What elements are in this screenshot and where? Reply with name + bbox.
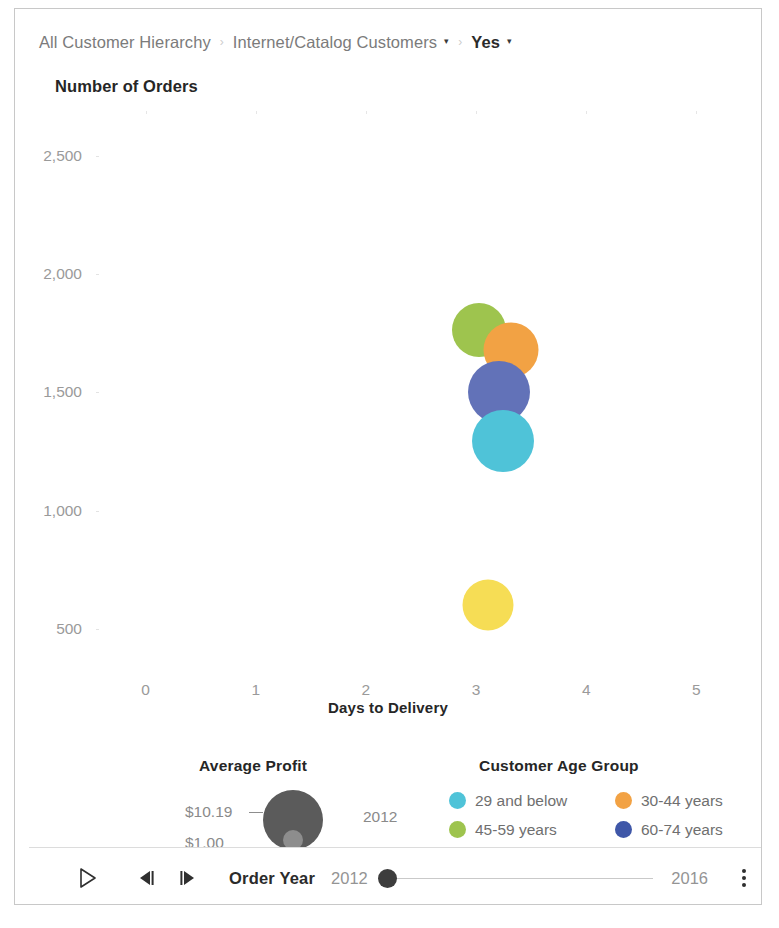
play-axis-handle[interactable] (378, 869, 397, 888)
chevron-down-icon-yes[interactable]: ▾ (507, 36, 512, 46)
size-legend-body: $10.19 $1.00 2012 (185, 786, 435, 848)
gridline-vertical (256, 111, 257, 669)
x-axis-tick-label: 5 (692, 681, 701, 699)
breadcrumb-item-internet-catalog-customers[interactable]: Internet/Catalog Customers (233, 33, 437, 52)
legend-swatch-icon (615, 792, 632, 809)
chevron-down-icon-internet-catalog[interactable]: ▾ (444, 36, 449, 46)
gridline-horizontal (96, 392, 746, 393)
breadcrumb-item-yes[interactable]: Yes (471, 33, 500, 52)
legend-item-label: 30-44 years (641, 792, 723, 810)
play-axis-start-value: 2012 (331, 869, 368, 888)
legend-item[interactable]: 60-74 years (615, 815, 762, 844)
gridline-horizontal (96, 511, 746, 512)
visualization-card: All Customer Hierarchy › Internet/Catalo… (14, 8, 762, 905)
bubble-point[interactable] (472, 410, 534, 472)
y-axis-tick-label: 1,500 (43, 383, 82, 401)
legend-item-label: 60-74 years (641, 821, 723, 839)
size-legend-year-label: 2012 (363, 808, 397, 826)
legend-item-label: 29 and below (475, 792, 567, 810)
size-legend: Average Profit $10.19 $1.00 2012 (185, 757, 435, 848)
color-legend-title: Customer Age Group (479, 757, 762, 775)
legend-item[interactable]: 45-59 years (449, 815, 615, 844)
y-axis-title: Number of Orders (55, 77, 198, 96)
legend-swatch-icon (449, 792, 466, 809)
y-axis-tick-label: 1,000 (43, 502, 82, 520)
breadcrumb: All Customer Hierarchy › Internet/Catalo… (39, 31, 512, 53)
gridline-horizontal (96, 156, 746, 157)
breadcrumb-separator-icon: › (220, 35, 224, 49)
play-icon[interactable] (71, 861, 105, 895)
play-axis-field-label: Order Year (229, 869, 315, 888)
breadcrumb-item-all-customer-hierarchy[interactable]: All Customer Hierarchy (39, 33, 211, 52)
bubble-point[interactable] (463, 580, 514, 631)
gridline-horizontal (96, 629, 746, 630)
x-axis-tick-label: 4 (582, 681, 591, 699)
play-axis-bar: Order Year 2012 2016 (29, 847, 762, 905)
gridline-vertical (146, 111, 147, 669)
legend-row: Average Profit $10.19 $1.00 2012 Custome… (29, 757, 762, 857)
legend-swatch-icon (615, 821, 632, 838)
size-legend-max-label: $10.19 (185, 803, 232, 821)
gridline-horizontal (96, 274, 746, 275)
plot-area[interactable]: 2,5002,0001,5001,000500 012345 (96, 111, 746, 669)
x-axis-title: Days to Delivery (15, 699, 761, 716)
y-axis-tick-label: 500 (56, 620, 82, 638)
y-axis-tick-label: 2,500 (43, 147, 82, 165)
size-legend-title: Average Profit (199, 757, 435, 775)
size-legend-leader-line (249, 812, 263, 813)
gridline-vertical (696, 111, 697, 669)
x-axis-tick-label: 2 (362, 681, 371, 699)
x-axis-tick-label: 1 (251, 681, 260, 699)
play-axis-track[interactable] (390, 878, 653, 879)
play-axis-end-value: 2016 (671, 869, 708, 888)
gridline-vertical (366, 111, 367, 669)
legend-swatch-icon (449, 821, 466, 838)
legend-item[interactable]: 30-44 years (615, 786, 762, 815)
more-options-icon[interactable] (730, 863, 758, 893)
legend-item-label: 45-59 years (475, 821, 557, 839)
gridline-vertical (586, 111, 587, 669)
breadcrumb-separator-icon-2: › (458, 35, 462, 49)
color-legend-items: 29 and below30-44 years45-59 years60-74 … (449, 786, 762, 844)
legend-item[interactable]: 29 and below (449, 786, 615, 815)
step-forward-icon[interactable] (173, 865, 199, 891)
x-axis-tick-label: 0 (141, 681, 150, 699)
x-axis-tick-label: 3 (472, 681, 481, 699)
y-axis-tick-label: 2,000 (43, 265, 82, 283)
step-backward-icon[interactable] (135, 865, 161, 891)
play-axis-slider[interactable] (376, 867, 661, 889)
color-legend: Customer Age Group 29 and below30-44 yea… (449, 757, 762, 844)
